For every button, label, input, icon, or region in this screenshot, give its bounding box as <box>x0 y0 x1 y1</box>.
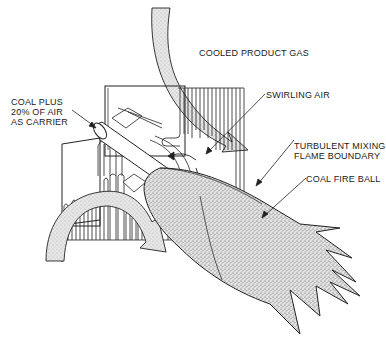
label-coal-plus-line3: AS CARRIER <box>11 117 68 127</box>
label-coal-plus-line2: 20% OF AIR <box>11 107 63 117</box>
label-swirling-air: SWIRLING AIR <box>266 90 330 100</box>
label-turbulent-line1: TURBULENT MIXING <box>294 141 386 151</box>
label-coal-fire-ball: COAL FIRE BALL <box>306 174 381 184</box>
label-turbulent-line2: FLAME BOUNDARY <box>294 151 380 161</box>
coal-fire-ball-flame <box>144 168 360 334</box>
burner-diagram: COOLED PRODUCT GAS COAL PLUS 20% OF AIR … <box>0 0 386 342</box>
diagram-artwork <box>0 0 386 342</box>
label-coal-plus-line1: COAL PLUS <box>11 97 63 107</box>
label-cooled-product-gas: COOLED PRODUCT GAS <box>199 48 309 58</box>
